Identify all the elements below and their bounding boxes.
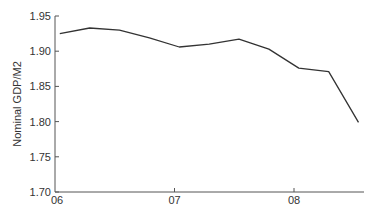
- x-tick-label: 07: [168, 194, 180, 206]
- y-tick-label: 1.85: [30, 80, 51, 92]
- y-tick-label: 1.80: [30, 116, 51, 128]
- line-chart: 1.951.901.851.801.751.70060708 Nominal G…: [0, 0, 376, 217]
- tick-labels: 1.951.901.851.801.751.70060708: [30, 10, 301, 206]
- y-tick-label: 1.95: [30, 10, 51, 22]
- axes: [55, 16, 364, 192]
- x-tick-label: 06: [51, 194, 63, 206]
- y-tick-label: 1.75: [30, 151, 51, 163]
- x-tick-label: 08: [288, 194, 300, 206]
- data-line: [60, 28, 359, 122]
- y-axis-label: Nominal GDP/M2: [11, 61, 23, 147]
- y-tick-label: 1.70: [30, 186, 51, 198]
- y-tick-label: 1.90: [30, 45, 51, 57]
